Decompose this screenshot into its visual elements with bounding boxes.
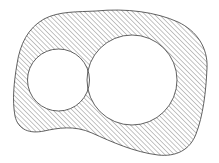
large-circle-hole-outline [87, 35, 177, 125]
figure-canvas [0, 0, 219, 163]
hatched-region-figure [0, 0, 219, 163]
small-circle-hole-outline [28, 49, 90, 111]
